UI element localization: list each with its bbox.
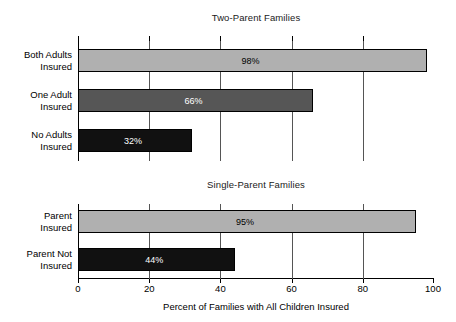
x-axis-tick-labels: 0 20 40 60 80 100: [78, 283, 434, 297]
category-label-line-1: Parent Not: [0, 248, 72, 260]
bar-row-both-adults-insured: 98%: [78, 49, 434, 72]
category-label-line-1: Both Adults: [0, 49, 72, 61]
category-label-line-2: Insured: [0, 101, 72, 113]
x-tick-label-0: 0: [75, 283, 80, 294]
plot-area-single-parent: 95% 44%: [78, 204, 434, 279]
tickmark-80-top: [363, 36, 364, 41]
x-axis-line: [78, 278, 434, 279]
category-label-line-2: Insured: [0, 222, 72, 234]
category-label-no-adults-insured: No Adults Insured: [0, 129, 72, 152]
x-tick-label-80: 80: [358, 283, 369, 294]
x-tick-label-100: 100: [425, 283, 441, 294]
bar-value-label-parent-not-insured: 44%: [145, 255, 163, 265]
category-label-line-1: One Adult: [0, 89, 72, 101]
panel-title-two-parent: Two-Parent Families: [78, 12, 434, 23]
x-tick-label-60: 60: [286, 283, 297, 294]
tickmark-40-top: [220, 36, 221, 41]
panel-title-single-parent: Single-Parent Families: [78, 179, 434, 190]
bar-row-no-adults-insured: 32%: [78, 129, 434, 152]
category-label-line-2: Insured: [0, 61, 72, 73]
bar-row-parent-insured: 95%: [78, 210, 434, 233]
bar-value-label-both-adults-insured: 98%: [241, 56, 259, 66]
category-label-parent-not-insured: Parent Not Insured: [0, 248, 72, 271]
tickmark-0-top: [78, 36, 79, 41]
category-label-line-1: Parent: [0, 210, 72, 222]
category-label-both-adults-insured: Both Adults Insured: [0, 49, 72, 72]
x-axis-title: Percent of Families with All Children In…: [78, 301, 434, 312]
bar-value-label-one-adult-insured: 66%: [185, 96, 203, 106]
category-label-line-1: No Adults: [0, 129, 72, 141]
bar-row-parent-not-insured: 44%: [78, 248, 434, 271]
category-label-line-2: Insured: [0, 141, 72, 153]
category-label-one-adult-insured: One Adult Insured: [0, 89, 72, 112]
tickmark-20-top: [149, 36, 150, 41]
bar-row-one-adult-insured: 66%: [78, 89, 434, 112]
x-tick-label-20: 20: [144, 283, 155, 294]
category-label-line-2: Insured: [0, 260, 72, 272]
tickmark-60-top: [292, 36, 293, 41]
x-tick-label-40: 40: [215, 283, 226, 294]
chart-figure: Two-Parent Families 98% 66% 32% Both A: [0, 0, 456, 322]
category-label-parent-insured: Parent Insured: [0, 210, 72, 233]
plot-area-two-parent: 98% 66% 32%: [78, 41, 434, 161]
bar-value-label-no-adults-insured: 32%: [124, 136, 142, 146]
bar-value-label-parent-insured: 95%: [236, 217, 254, 227]
